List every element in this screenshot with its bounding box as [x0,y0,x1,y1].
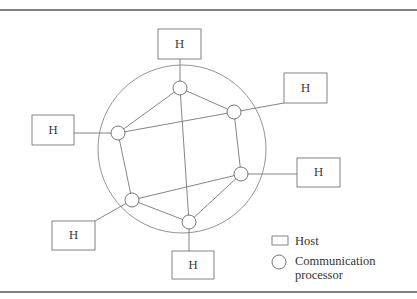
link-cp-top-cp-left [118,88,180,133]
link-cp-right-cp-bottom [189,174,241,222]
host-left: H [32,115,74,145]
cp-top [173,81,187,95]
link-cp-right-top-cp-left [118,112,234,133]
link-cp-bottom-left-cp-bottom [132,200,189,222]
cp-left [111,126,125,140]
legend-host-label: Host [295,234,319,248]
host-label: H [48,124,58,137]
link-cp-right-top-cp-right [234,112,241,174]
network-diagram: HHHHHH Host Communication processor [0,0,417,299]
host-right-top: H [284,73,327,103]
legend-processor-label-line2: processor [295,268,344,282]
host-bottom-left: H [52,221,95,250]
host-bottom: H [172,251,214,279]
host-label: H [301,82,311,95]
legend-host-icon [272,236,288,245]
host-top: H [158,29,201,59]
link-cp-top-cp-bottom [180,88,189,222]
host-label: H [188,259,198,272]
host-label: H [69,229,79,242]
host-label: H [314,166,324,179]
host-label: H [175,38,185,51]
cp-right-top [227,105,241,119]
link-cp-top-cp-right-top [180,88,234,112]
legend-processor-label-line1: Communication [295,254,376,268]
cp-bottom-left [125,193,139,207]
communication-processors [111,81,248,229]
host-right: H [297,158,340,187]
legend: Host Communication processor [272,234,376,282]
legend-processor-icon [272,255,286,269]
link-cp-left-cp-bottom-left [118,133,132,200]
cp-right [234,167,248,181]
hosts: HHHHHH [32,29,340,279]
host-link-host-right-top [234,103,284,112]
cp-bottom [182,215,196,229]
link-cp-right-cp-bottom-left [132,174,241,200]
